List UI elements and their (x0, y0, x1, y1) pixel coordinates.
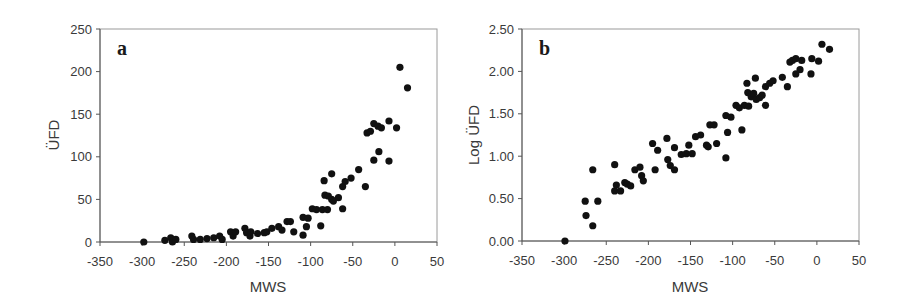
data-point (640, 177, 647, 184)
data-point (818, 41, 825, 48)
data-point (752, 75, 759, 82)
data-point (328, 170, 335, 177)
data-point (689, 150, 696, 157)
y-tick-label: 2.50 (489, 22, 514, 37)
data-point (254, 230, 261, 237)
data-point (613, 181, 620, 188)
x-tick-label: -50 (765, 253, 784, 268)
data-point (375, 148, 382, 155)
data-points-a (140, 64, 411, 246)
data-point (762, 102, 769, 109)
y-tick-label: 0 (85, 235, 92, 250)
data-point (219, 236, 226, 243)
data-point (324, 206, 331, 213)
data-point (304, 215, 311, 222)
data-point (743, 80, 750, 87)
chart-panel-b: 0.000.501.001.502.002.50 -350-300-250-20… (465, 22, 866, 296)
y-tick-label: 200 (70, 64, 92, 79)
data-point (652, 166, 659, 173)
y-tick-label: 250 (70, 22, 92, 37)
plot-area-b (522, 29, 859, 241)
data-point (404, 84, 411, 91)
data-point (779, 74, 786, 81)
data-point (807, 70, 814, 77)
x-tick-label: -300 (129, 254, 155, 269)
x-tick-label: -50 (343, 254, 362, 269)
x-tick-label: -200 (213, 254, 239, 269)
data-point (808, 55, 815, 62)
x-tick-label: -350 (87, 254, 113, 269)
data-point (798, 57, 805, 64)
data-point (611, 161, 618, 168)
data-point (713, 140, 720, 147)
x-tick-label: -250 (171, 254, 197, 269)
x-tick-label: 50 (852, 253, 866, 268)
data-point (172, 236, 179, 243)
y-tick-label: 1.50 (489, 106, 514, 121)
data-point (745, 103, 752, 110)
data-point (738, 126, 745, 133)
data-point (636, 164, 643, 171)
data-point (705, 143, 712, 150)
data-point (654, 147, 661, 154)
figure: 050100150200250 -350-300-250-200-150-100… (0, 0, 908, 307)
panel-label-b: b (539, 37, 550, 59)
data-points-b (561, 41, 833, 245)
data-point (685, 142, 692, 149)
x-tick-label: -150 (255, 254, 281, 269)
x-tick-label: -100 (720, 253, 746, 268)
x-tick-label: -350 (509, 253, 535, 268)
x-tick-label: -300 (551, 253, 577, 268)
data-point (589, 222, 596, 229)
data-point (303, 223, 310, 230)
data-point (589, 166, 596, 173)
data-point (594, 198, 601, 205)
data-point (617, 187, 624, 194)
x-axis-title-a: MWS (250, 278, 287, 295)
data-point (317, 222, 324, 229)
data-point (190, 236, 197, 243)
data-point (335, 194, 342, 201)
data-point (232, 228, 239, 235)
data-point (378, 124, 385, 131)
data-point (367, 128, 374, 135)
x-ticks-b: -350-300-250-200-150-100-50050 (509, 241, 866, 268)
data-point (396, 64, 403, 71)
y-axis-title-a: ÜFD (45, 119, 62, 150)
x-tick-label: -200 (635, 253, 661, 268)
y-tick-label: 0.50 (489, 191, 514, 206)
data-point (140, 238, 147, 245)
data-point (339, 205, 346, 212)
chart-panel-a: 050100150200250 -350-300-250-200-150-100… (45, 22, 444, 296)
x-axis-title-b: MWS (672, 278, 709, 295)
y-tick-label: 1.00 (489, 149, 514, 164)
data-point (724, 129, 731, 136)
data-point (362, 183, 369, 190)
data-point (722, 154, 729, 161)
data-point (796, 66, 803, 73)
data-point (784, 83, 791, 90)
data-point (826, 46, 833, 53)
data-point (247, 228, 254, 235)
y-tick-label: 0.00 (489, 234, 514, 249)
y-axis-title-b: Log ÜFD (465, 105, 482, 165)
data-point (385, 117, 392, 124)
data-point (627, 182, 634, 189)
x-tick-label: -250 (593, 253, 619, 268)
x-tick-label: -100 (298, 254, 324, 269)
data-point (561, 237, 568, 244)
data-point (697, 131, 704, 138)
y-tick-label: 2.00 (489, 64, 514, 79)
data-point (769, 77, 776, 84)
data-point (290, 228, 297, 235)
data-point (671, 144, 678, 151)
plot-area-a (100, 29, 437, 242)
data-point (671, 166, 678, 173)
x-tick-label: 0 (391, 254, 398, 269)
data-point (278, 226, 285, 233)
data-point (759, 92, 766, 99)
x-tick-label: 50 (430, 254, 444, 269)
data-point (663, 135, 670, 142)
y-ticks-a: 050100150200250 (70, 22, 100, 250)
x-tick-label: -150 (677, 253, 703, 268)
